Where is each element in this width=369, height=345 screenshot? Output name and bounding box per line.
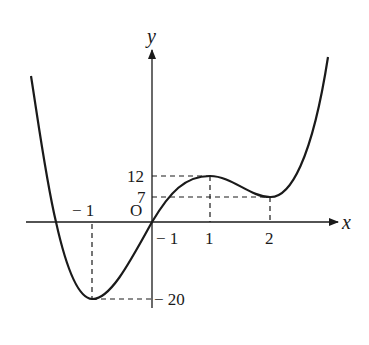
y-axis-label: y: [145, 25, 156, 48]
x-axis-label: x: [341, 211, 351, 233]
extra-label-neg1: − 1: [156, 229, 178, 248]
x-tick-label-neg1: − 1: [72, 201, 94, 220]
x-tick-label-2: 2: [265, 229, 274, 248]
function-graph: y x O − 1 1 2 − 1 12 7 − 20: [0, 0, 369, 345]
x-tick-label-1: 1: [205, 229, 214, 248]
y-tick-label-7: 7: [137, 188, 146, 207]
guide-lines: [92, 176, 270, 299]
y-tick-label-neg20: − 20: [154, 290, 185, 309]
y-tick-label-12: 12: [127, 167, 144, 186]
function-curve: [31, 57, 328, 299]
